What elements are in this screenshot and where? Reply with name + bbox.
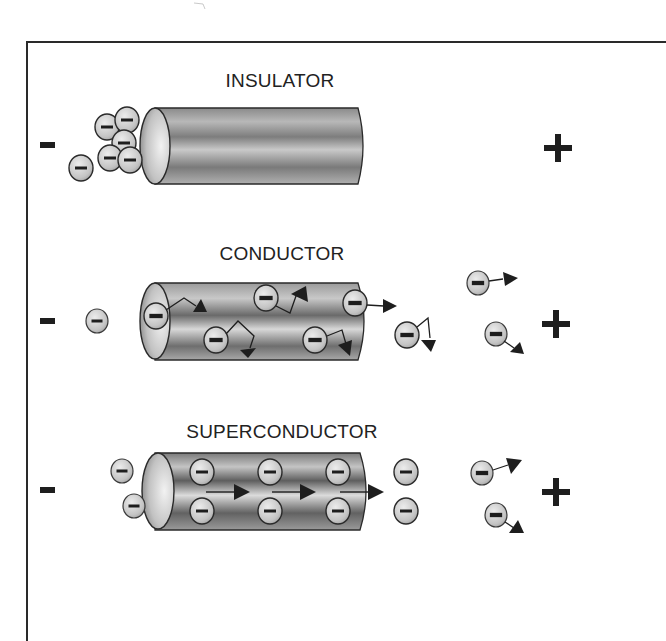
conductor-entering-electron (86, 309, 108, 333)
conductor-cylinder (140, 283, 364, 360)
conductor-exiting-electrons (467, 271, 524, 354)
insulator-electron-cluster (69, 107, 142, 181)
insulator-cylinder (140, 108, 363, 184)
superconductor-entering-electrons (111, 459, 145, 518)
superconductor-exiting-electrons (471, 458, 524, 533)
